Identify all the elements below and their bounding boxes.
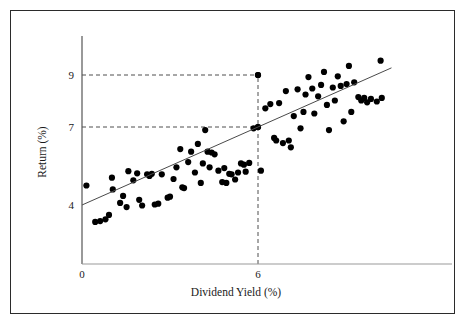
data-point: [295, 86, 301, 92]
data-point: [243, 169, 249, 175]
data-point: [200, 160, 206, 166]
data-point: [321, 69, 327, 75]
data-point: [280, 140, 286, 146]
data-point: [125, 168, 131, 174]
data-point: [326, 127, 332, 133]
data-point: [286, 137, 292, 143]
data-point: [173, 164, 179, 170]
data-point: [267, 101, 273, 107]
data-point: [207, 164, 213, 170]
data-point: [106, 212, 112, 218]
data-point: [288, 144, 294, 150]
data-point: [120, 193, 126, 199]
x-tick-label: 0: [79, 268, 85, 280]
data-point: [335, 73, 341, 79]
regression-line-group: [82, 68, 391, 205]
y-tick-label: 7: [69, 121, 75, 133]
data-point: [246, 160, 252, 166]
data-point: [83, 182, 89, 188]
data-point: [192, 169, 198, 175]
data-point: [223, 180, 229, 186]
data-point: [258, 168, 264, 174]
data-point: [123, 204, 129, 210]
data-point: [185, 159, 191, 165]
y-axis-title: Return (%): [36, 126, 49, 178]
data-point: [318, 82, 324, 88]
data-point: [338, 83, 344, 89]
x-tick-label: 6: [255, 268, 261, 280]
data-point: [159, 171, 165, 177]
data-point: [374, 98, 380, 104]
data-point: [379, 95, 385, 101]
data-point: [232, 176, 238, 182]
data-point: [221, 165, 227, 171]
data-point: [202, 127, 208, 133]
data-point: [195, 141, 201, 147]
data-point: [241, 162, 247, 168]
data-point: [109, 175, 115, 181]
data-point: [302, 91, 308, 97]
x-axis-title: Dividend Yield (%): [191, 286, 281, 299]
data-point: [198, 180, 204, 186]
data-point: [368, 96, 374, 102]
data-point: [134, 170, 140, 176]
data-point: [155, 201, 161, 207]
data-point: [139, 202, 145, 208]
point-at-6-9: [255, 72, 261, 78]
data-point: [291, 113, 297, 119]
data-point: [215, 168, 221, 174]
data-point: [136, 197, 142, 203]
reference-lines-group: [82, 75, 258, 264]
y-tick-label: 4: [69, 199, 75, 211]
data-point: [332, 97, 338, 103]
data-point: [346, 63, 352, 69]
y-tick-label: 9: [69, 69, 75, 81]
data-point: [181, 185, 187, 191]
figure-root: 47906 Dividend Yield (%) Return (%): [0, 0, 466, 324]
data-point: [170, 176, 176, 182]
regression-line: [82, 68, 391, 205]
data-point: [300, 109, 306, 115]
data-point: [276, 100, 282, 106]
data-point: [211, 151, 217, 157]
data-point: [235, 169, 241, 175]
data-point: [167, 194, 173, 200]
data-point: [117, 200, 123, 206]
scatter-chart: 47906 Dividend Yield (%) Return (%): [0, 0, 466, 324]
data-point: [311, 110, 317, 116]
data-point: [97, 218, 103, 224]
data-point: [330, 84, 336, 90]
data-points-group: [83, 58, 385, 225]
data-point: [324, 102, 330, 108]
data-point: [273, 137, 279, 143]
data-point: [305, 74, 311, 80]
data-point: [229, 171, 235, 177]
data-point: [378, 58, 384, 64]
axes-group: [82, 36, 452, 264]
data-point: [177, 146, 183, 152]
data-point: [297, 125, 303, 131]
data-point: [341, 118, 347, 124]
data-point: [348, 109, 354, 115]
data-point: [309, 85, 315, 91]
data-point: [262, 105, 268, 111]
data-point: [188, 149, 194, 155]
data-point: [315, 93, 321, 99]
data-point: [283, 88, 289, 94]
